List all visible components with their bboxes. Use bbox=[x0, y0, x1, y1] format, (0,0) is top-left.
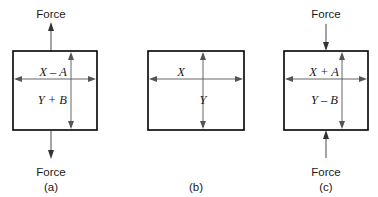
panel-c-force-label-top: Force bbox=[311, 8, 340, 20]
panel-c-force-arrow-top-down-icon bbox=[323, 24, 329, 51]
force-deformation-diagram: Force X – A Y + B bbox=[0, 0, 378, 197]
panel-b-width-label: X bbox=[176, 65, 186, 79]
panel-c-width-label: X + A bbox=[308, 65, 339, 79]
panel-a: Force X – A Y + B bbox=[13, 8, 97, 193]
panel-c-height-dimension bbox=[339, 52, 345, 129]
panel-a-force-label-bottom: Force bbox=[36, 166, 65, 178]
panel-a-force-label-top: Force bbox=[36, 8, 65, 20]
panel-c-square bbox=[284, 51, 368, 130]
panel-c-caption: (c) bbox=[319, 181, 333, 193]
panel-c-height-label: Y – B bbox=[311, 93, 338, 107]
panel-a-square bbox=[13, 51, 97, 130]
panel-a-height-label: Y + B bbox=[38, 93, 68, 107]
panel-c-force-label-bottom: Force bbox=[311, 166, 340, 178]
panel-c-force-arrow-bottom-up-icon bbox=[323, 130, 329, 158]
panel-c: Force X + A Y – B bbox=[284, 8, 368, 193]
panel-b-width-dimension bbox=[149, 76, 243, 82]
panel-b-caption: (b) bbox=[189, 181, 203, 193]
panel-a-width-label: X – A bbox=[38, 65, 67, 79]
panel-b-square bbox=[148, 51, 244, 130]
panel-b-height-label: Y bbox=[200, 93, 209, 107]
panel-b-height-dimension bbox=[200, 52, 206, 129]
panel-a-height-dimension bbox=[68, 52, 74, 129]
panel-b: X Y (b) bbox=[148, 51, 244, 193]
panel-a-force-arrow-top-up-icon bbox=[48, 22, 54, 51]
panel-a-force-arrow-bottom-down-icon bbox=[48, 130, 54, 159]
panel-a-caption: (a) bbox=[44, 181, 58, 193]
